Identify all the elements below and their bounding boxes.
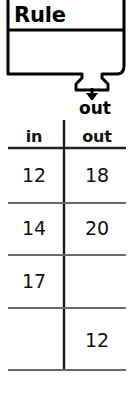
column-header-in: in bbox=[6, 126, 62, 148]
cell-in-2[interactable]: 17 bbox=[6, 270, 62, 292]
cell-out-1[interactable]: 20 bbox=[69, 217, 125, 239]
column-header-out: out bbox=[69, 126, 125, 148]
rule-label: Rule bbox=[14, 2, 66, 28]
cell-in-1[interactable]: 14 bbox=[6, 217, 62, 239]
rule-machine: Rule out bbox=[0, 0, 132, 100]
cell-out-0[interactable]: 18 bbox=[69, 164, 125, 186]
cell-in-0[interactable]: 12 bbox=[6, 164, 62, 186]
cell-out-3[interactable]: 12 bbox=[69, 329, 125, 351]
in-out-table: in out 12 18 14 20 17 12 bbox=[0, 120, 132, 375]
output-label: out bbox=[72, 98, 118, 118]
worksheet-in-out-table: Rule out in out 12 18 14 20 17 12 bbox=[0, 0, 132, 401]
